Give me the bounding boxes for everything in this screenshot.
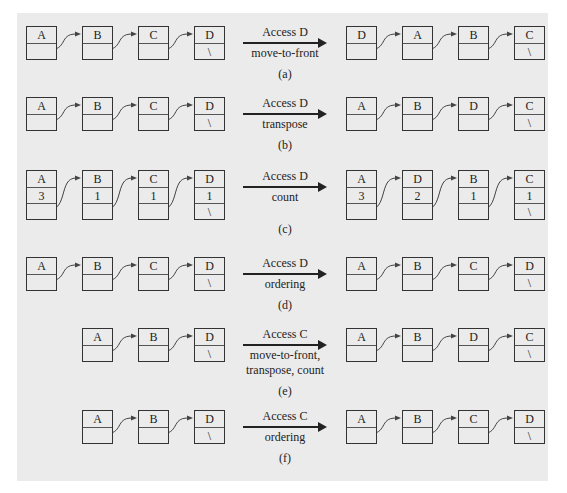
list-node: A3: [346, 170, 377, 220]
list-node: D\: [514, 257, 545, 291]
strategy-label: ordering: [230, 430, 340, 445]
list-node: D2: [402, 170, 433, 220]
node-key-cell: C: [515, 27, 544, 43]
node-link-cell: [83, 43, 112, 59]
arrowhead-icon: [395, 416, 401, 421]
node-key-cell: A: [347, 171, 376, 187]
list-node: D\: [194, 257, 225, 291]
node-link-cell: [347, 427, 376, 443]
arrowhead-icon: [451, 176, 457, 181]
list-node: B: [402, 410, 433, 444]
node-key-cell: D: [195, 258, 224, 274]
node-link-cell: [83, 345, 112, 361]
node-key-cell: B: [403, 98, 432, 114]
node-link-cell: [347, 274, 376, 290]
node-link-cell: [403, 114, 432, 130]
list-node: B: [138, 328, 169, 362]
node-key-cell: B: [403, 258, 432, 274]
list-node: D\: [194, 410, 225, 444]
strategy-label: ordering: [230, 277, 340, 292]
list-node: C: [458, 410, 489, 444]
arrowhead-icon: [75, 103, 81, 108]
arrowhead-icon: [451, 334, 457, 339]
node-key-cell: A: [83, 411, 112, 427]
strategy-label: count: [230, 190, 340, 205]
node-key-cell: A: [27, 258, 56, 274]
node-link-cell: \: [195, 114, 224, 130]
transform-arrow-icon: [243, 42, 325, 44]
list-node: B: [82, 97, 113, 131]
node-link-cell: [403, 43, 432, 59]
node-key-cell: A: [83, 329, 112, 345]
node-link-cell: [347, 43, 376, 59]
node-link-cell: [139, 274, 168, 290]
node-key-cell: B: [83, 27, 112, 43]
arrowhead-icon: [451, 416, 457, 421]
list-node: C: [458, 257, 489, 291]
node-key-cell: C: [459, 258, 488, 274]
node-link-cell: [139, 345, 168, 361]
transform-arrow-icon: [243, 273, 325, 275]
arrowhead-icon: [451, 103, 457, 108]
node-key-cell: C: [139, 171, 168, 187]
node-link-cell: \: [515, 345, 544, 361]
list-node: B: [138, 410, 169, 444]
list-node: C\: [514, 26, 545, 60]
arrowhead-icon: [131, 176, 137, 181]
list-node: C\: [514, 97, 545, 131]
node-key-cell: C: [515, 329, 544, 345]
node-key-cell: D: [195, 171, 224, 187]
list-node: C: [138, 257, 169, 291]
node-link-cell: [27, 114, 56, 130]
node-key-cell: D: [195, 98, 224, 114]
node-key-cell: B: [459, 27, 488, 43]
node-key-cell: D: [347, 27, 376, 43]
node-key-cell: A: [27, 171, 56, 187]
node-link-cell: [27, 203, 56, 219]
node-key-cell: B: [459, 171, 488, 187]
list-node: A: [26, 26, 57, 60]
node-count-cell: 1: [83, 187, 112, 203]
node-link-cell: \: [195, 427, 224, 443]
list-node: C1: [138, 170, 169, 220]
node-link-cell: [27, 274, 56, 290]
node-key-cell: D: [195, 329, 224, 345]
panel-caption: (e): [230, 384, 340, 399]
list-node: A: [346, 328, 377, 362]
arrowhead-icon: [131, 334, 137, 339]
node-link-cell: [83, 203, 112, 219]
list-node: A: [82, 410, 113, 444]
node-key-cell: D: [515, 411, 544, 427]
arrowhead-icon: [131, 416, 137, 421]
node-link-cell: \: [195, 274, 224, 290]
node-link-cell: \: [195, 203, 224, 219]
arrowhead-icon: [395, 32, 401, 37]
strategy-label-line2: transpose, count: [230, 363, 340, 378]
node-count-cell: 3: [27, 187, 56, 203]
node-link-cell: [83, 427, 112, 443]
list-node: A3: [26, 170, 57, 220]
list-node: B: [458, 26, 489, 60]
node-key-cell: A: [347, 98, 376, 114]
node-key-cell: B: [403, 411, 432, 427]
list-node: A: [346, 410, 377, 444]
list-node: C1\: [514, 170, 545, 220]
node-key-cell: A: [347, 329, 376, 345]
list-node: C: [138, 26, 169, 60]
panel-caption: (b): [230, 138, 340, 153]
arrowhead-icon: [187, 416, 193, 421]
list-node: A: [26, 97, 57, 131]
list-node: D\: [514, 410, 545, 444]
arrowhead-icon: [395, 263, 401, 268]
node-key-cell: B: [403, 329, 432, 345]
node-key-cell: B: [83, 98, 112, 114]
list-node: A: [26, 257, 57, 291]
arrowhead-icon: [75, 32, 81, 37]
list-node: A: [82, 328, 113, 362]
node-count-cell: 1: [195, 187, 224, 203]
node-link-cell: [139, 427, 168, 443]
arrowhead-icon: [507, 32, 513, 37]
node-key-cell: A: [403, 27, 432, 43]
node-link-cell: [83, 274, 112, 290]
node-key-cell: D: [195, 411, 224, 427]
